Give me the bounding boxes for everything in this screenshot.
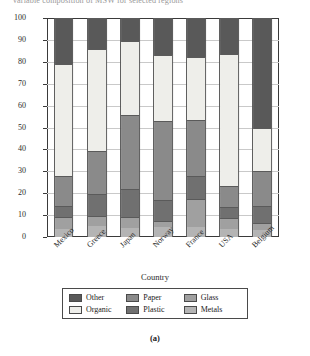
bar-segment-plastic[interactable]: [253, 206, 271, 222]
bar-segment-paper[interactable]: [55, 176, 73, 207]
bar-segment-paper[interactable]: [121, 115, 139, 188]
y-tick-label: 100: [0, 13, 26, 22]
stacked-bars: [47, 18, 279, 237]
chart-legend: OtherPaperGlass OrganicPlasticMetals: [62, 288, 248, 319]
legend-swatch-plastic: [126, 306, 139, 314]
legend-label: Other: [86, 293, 104, 302]
bar-slot: [146, 18, 179, 237]
bar-segment-other[interactable]: [88, 18, 106, 49]
chart-title: Variable composition of MSW for selected…: [12, 0, 298, 5]
bar-slot: [213, 18, 246, 237]
stacked-bar[interactable]: [153, 18, 173, 237]
legend-label: Metals: [201, 305, 223, 314]
legend-swatch-glass: [184, 294, 197, 302]
legend-swatch-other: [69, 294, 82, 302]
bar-segment-plastic[interactable]: [154, 200, 172, 221]
bar-segment-other[interactable]: [121, 18, 139, 41]
stacked-bar[interactable]: [252, 18, 272, 237]
bar-segment-organic[interactable]: [253, 128, 271, 172]
legend-label: Paper: [143, 293, 161, 302]
bar-segment-organic[interactable]: [187, 57, 205, 119]
bar-segment-plastic[interactable]: [88, 194, 106, 216]
bar-segment-paper[interactable]: [154, 121, 172, 200]
bar-segment-organic[interactable]: [88, 49, 106, 151]
bar-segment-other[interactable]: [253, 18, 271, 128]
bar-segment-other[interactable]: [187, 18, 205, 57]
bar-segment-glass[interactable]: [88, 216, 106, 226]
x-axis-label: Country: [0, 272, 310, 282]
bar-segment-paper[interactable]: [253, 171, 271, 206]
stacked-bar[interactable]: [186, 18, 206, 237]
legend-item-other[interactable]: Other: [69, 293, 126, 302]
bar-slot: [80, 18, 113, 237]
legend-swatch-metals: [184, 306, 197, 314]
legend-swatch-paper: [126, 294, 139, 302]
y-tick-label: 80: [0, 57, 26, 66]
bar-segment-paper[interactable]: [187, 120, 205, 176]
panel-letter: (a): [0, 333, 310, 343]
legend-item-plastic[interactable]: Plastic: [126, 305, 183, 314]
bar-segment-paper[interactable]: [88, 151, 106, 195]
y-tick-label: 60: [0, 101, 26, 110]
legend-item-metals[interactable]: Metals: [184, 305, 241, 314]
bar-segment-glass[interactable]: [220, 218, 238, 229]
legend-row: OrganicPlasticMetals: [69, 305, 241, 314]
y-tick-label: 30: [0, 166, 26, 175]
bar-segment-organic[interactable]: [55, 64, 73, 176]
bar-segment-organic[interactable]: [220, 54, 238, 185]
figure-panel: Variable composition of MSW for selected…: [0, 0, 310, 356]
bar-segment-glass[interactable]: [187, 199, 205, 227]
y-tick-label: 0: [0, 232, 26, 241]
legend-label: Organic: [86, 305, 112, 314]
bar-slot: [47, 18, 80, 237]
bar-slot: [246, 18, 279, 237]
bar-segment-plastic[interactable]: [187, 176, 205, 199]
bar-segment-glass[interactable]: [121, 217, 139, 228]
bar-segment-paper[interactable]: [220, 186, 238, 208]
legend-label: Plastic: [143, 305, 164, 314]
y-tick-label: 90: [0, 35, 26, 44]
legend-label: Glass: [201, 293, 219, 302]
stacked-bar[interactable]: [87, 18, 107, 237]
stacked-bar[interactable]: [120, 18, 140, 237]
plot-area: [47, 18, 279, 237]
bar-segment-other[interactable]: [220, 18, 238, 54]
y-tick-label: 10: [0, 210, 26, 219]
bar-segment-organic[interactable]: [154, 55, 172, 121]
y-tick-label: 40: [0, 144, 26, 153]
y-tick-label: 20: [0, 188, 26, 197]
y-tick-label: 70: [0, 79, 26, 88]
bar-segment-plastic[interactable]: [220, 207, 238, 218]
legend-row: OtherPaperGlass: [69, 293, 241, 302]
bar-slot: [113, 18, 146, 237]
legend-item-organic[interactable]: Organic: [69, 305, 126, 314]
y-axis-label: Percent of waste: [0, 43, 1, 96]
legend-item-paper[interactable]: Paper: [126, 293, 183, 302]
y-tick-mark: [43, 237, 47, 238]
bar-slot: [180, 18, 213, 237]
bar-segment-other[interactable]: [154, 18, 172, 55]
bar-segment-plastic[interactable]: [55, 206, 73, 217]
bar-segment-other[interactable]: [55, 18, 73, 64]
stacked-bar[interactable]: [219, 18, 239, 237]
bar-segment-organic[interactable]: [121, 41, 139, 115]
y-tick-label: 50: [0, 123, 26, 132]
legend-item-glass[interactable]: Glass: [184, 293, 241, 302]
legend-swatch-organic: [69, 306, 82, 314]
bar-segment-plastic[interactable]: [121, 189, 139, 217]
stacked-bar[interactable]: [54, 18, 74, 237]
